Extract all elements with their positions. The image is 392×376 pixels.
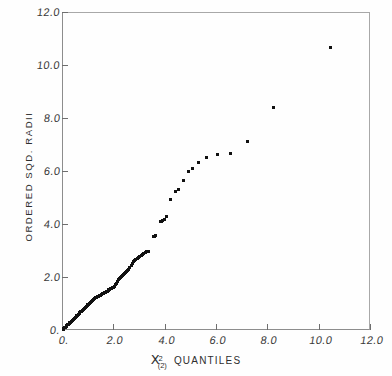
plot-frame [62,12,370,330]
y-axis-tick [62,118,68,119]
x-axis-tick [370,324,371,330]
x-axis-tick-label: 12.0 [359,334,384,346]
x-axis-tick-label: 10.0 [308,334,333,346]
y-axis-tick-label: 4.0 [43,218,61,230]
x-axis-tick-label: 6.0 [209,334,228,346]
y-axis-tick-label: 10.0 [36,59,60,71]
x-axis-tick [319,324,320,330]
x-axis-tick-label: 0. [58,334,70,346]
y-axis-tick-label: 6.0 [43,165,61,177]
x-axis-tick-label: 8.0 [260,334,279,346]
x-axis-tick [165,324,166,330]
y-axis-tick [62,224,68,225]
y-axis-tick [62,12,68,13]
y-axis-tick [62,171,68,172]
y-axis-tick-label: 2.0 [43,271,61,283]
x-axis-title-suffix: QUANTILES [174,355,241,366]
chi-square-qq-plot-figure: 0.2.04.06.08.010.012.00.2.04.06.08.010.0… [0,0,392,376]
x-axis-tick [267,324,268,330]
x-axis-tick-label: 4.0 [157,334,176,346]
y-axis-tick [62,65,68,66]
chi-subscript: (2) [158,361,167,370]
y-axis-tick [62,277,68,278]
y-axis-title: ORDERED SQD. RADII [23,77,34,277]
x-axis-tick-label: 2.0 [106,334,125,346]
x-axis-title: X2(2)QUANTILES [0,352,392,369]
y-axis-tick-label: 8.0 [43,112,61,124]
x-axis-tick [216,324,217,330]
x-axis-tick [113,324,114,330]
y-axis-tick-label: 12.0 [36,6,60,18]
